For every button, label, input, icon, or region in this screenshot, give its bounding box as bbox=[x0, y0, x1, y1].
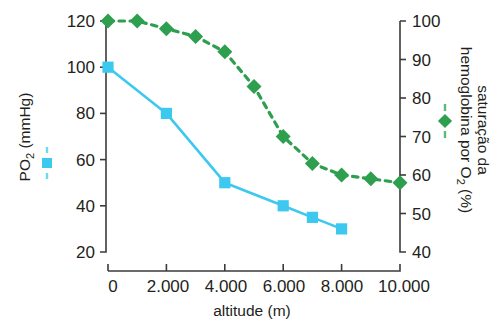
po2-legend-marker bbox=[42, 147, 52, 179]
saturation-data-point bbox=[334, 168, 349, 183]
saturation-data-point bbox=[130, 14, 145, 29]
right-tick-label-90: 90 bbox=[412, 51, 431, 70]
right-axis-title-line1: saturação da bbox=[475, 85, 492, 175]
x-tick-label-4000: 4.000 bbox=[205, 277, 248, 296]
right-y-axis: 100 90 80 70 60 50 40 bbox=[400, 12, 440, 262]
right-tick-label-60: 60 bbox=[412, 166, 431, 185]
po2-data-point bbox=[336, 223, 347, 234]
saturation-data-point bbox=[101, 14, 116, 29]
right-tick-label-100: 100 bbox=[412, 12, 440, 31]
right-axis-title-2: hemoglobina por O2 (%) bbox=[455, 47, 475, 213]
series-po2 bbox=[102, 62, 347, 235]
saturation-data-point bbox=[188, 29, 203, 44]
x-tick-label-6000: 6.000 bbox=[263, 277, 306, 296]
right-tick-label-70: 70 bbox=[412, 128, 431, 147]
saturation-data-point bbox=[159, 21, 174, 36]
x-tick-label-0: 0 bbox=[108, 277, 117, 296]
left-tick-label-40: 40 bbox=[76, 197, 95, 216]
left-y-axis: 120 100 80 60 40 20 bbox=[67, 12, 106, 262]
right-tick-label-50: 50 bbox=[412, 205, 431, 224]
diamond-marker-icon bbox=[438, 114, 452, 128]
saturation-data-point bbox=[363, 171, 378, 186]
po2-data-point bbox=[219, 177, 230, 188]
po2-data-point bbox=[102, 62, 113, 73]
x-tick-label-10000: 10.000 bbox=[378, 277, 430, 296]
chart-figure: 120 100 80 60 40 20 PO2 (mmHg) bbox=[0, 0, 502, 321]
po2-data-point bbox=[307, 212, 318, 223]
x-axis-title: altitude (m) bbox=[213, 302, 291, 319]
left-tick-label-60: 60 bbox=[76, 151, 95, 170]
svg-text:hemoglobina por O2 (%): hemoglobina por O2 (%) bbox=[455, 47, 475, 213]
saturation-data-point bbox=[217, 44, 232, 59]
right-axis-title: saturação da bbox=[475, 85, 492, 175]
saturation-data-point bbox=[393, 175, 408, 190]
po2-data-point bbox=[161, 108, 172, 119]
po2-line bbox=[108, 67, 342, 229]
po2-data-point bbox=[278, 200, 289, 211]
left-axis-title-tail: (mmHg) bbox=[16, 93, 33, 153]
x-axis: 0 2.000 4.000 6.000 8.000 10.000 bbox=[108, 264, 430, 296]
x-axis-line bbox=[108, 264, 400, 271]
x-tick-label-8000: 8.000 bbox=[321, 277, 364, 296]
right-tick-label-80: 80 bbox=[412, 89, 431, 108]
left-axis-line bbox=[100, 21, 106, 252]
right-axis-title-tail: (%) bbox=[458, 185, 475, 213]
left-axis-title-main: PO bbox=[16, 159, 33, 181]
left-tick-label-100: 100 bbox=[67, 58, 95, 77]
right-axis-title-main: hemoglobina por O bbox=[458, 47, 475, 179]
x-tick-label-2000: 2.000 bbox=[147, 277, 190, 296]
right-tick-label-40: 40 bbox=[412, 243, 431, 262]
left-axis-title: PO2 (mmHg) bbox=[16, 93, 36, 182]
left-tick-label-20: 20 bbox=[76, 243, 95, 262]
saturation-legend-marker bbox=[438, 104, 452, 138]
square-marker-icon bbox=[42, 158, 52, 168]
series-saturation bbox=[101, 14, 408, 191]
svg-text:PO2 (mmHg): PO2 (mmHg) bbox=[16, 93, 36, 182]
chart-svg: 120 100 80 60 40 20 PO2 (mmHg) bbox=[0, 0, 502, 321]
left-tick-label-80: 80 bbox=[76, 104, 95, 123]
left-tick-label-120: 120 bbox=[67, 12, 95, 31]
